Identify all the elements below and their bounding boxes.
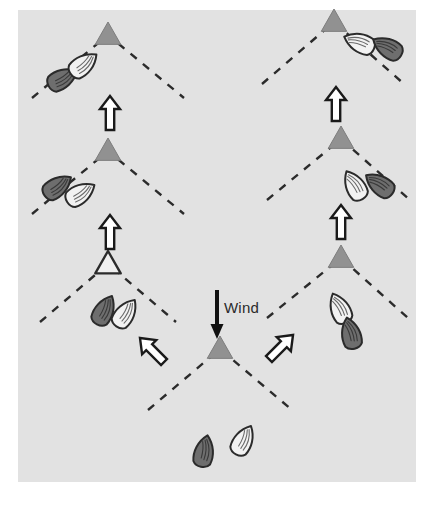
boat-bottom-center-light bbox=[228, 422, 260, 459]
mark-right-lower bbox=[328, 245, 353, 267]
boat-right-upper-light bbox=[341, 28, 378, 58]
course-arrow-bottom-right bbox=[262, 328, 300, 366]
course-arrow-layer bbox=[100, 87, 351, 369]
course-arrow-left-upper bbox=[100, 96, 120, 130]
wind-arrow-head bbox=[211, 324, 224, 339]
wind-indicator: Wind bbox=[211, 290, 259, 339]
boat-bottom-center-dark bbox=[192, 433, 217, 468]
mark-start-bottom-center bbox=[207, 336, 232, 358]
course-arrow-right-lower bbox=[331, 205, 351, 239]
mark-left-upper bbox=[95, 22, 120, 44]
mark-left-middle bbox=[95, 138, 120, 160]
course-arrow-left-lower bbox=[100, 215, 120, 249]
mark-right-middle bbox=[328, 126, 353, 148]
diagram-scene: Wind bbox=[0, 0, 437, 506]
course-arrow-bottom-left bbox=[133, 331, 171, 369]
course-arrow-right-upper bbox=[326, 87, 346, 121]
boat-right-middle-light bbox=[338, 167, 370, 204]
mark-right-upper bbox=[321, 9, 346, 31]
wind-label: Wind bbox=[224, 299, 259, 316]
sailing-tactics-diagram: Wind bbox=[0, 0, 437, 506]
mark-left-lower bbox=[95, 251, 120, 273]
boat-layer bbox=[39, 28, 406, 469]
